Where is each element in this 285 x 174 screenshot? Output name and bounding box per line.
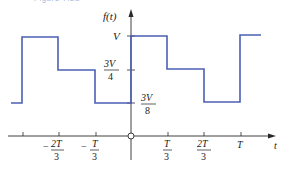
x-tick-label-2T3-num: 2T <box>197 138 209 149</box>
x-tick-label-T: T <box>237 139 244 150</box>
x-axis-arrow-icon <box>268 134 276 139</box>
y-tick-label-V: V <box>113 30 121 42</box>
x-tick-label-negT3-den: 3 <box>92 151 97 162</box>
figure: Figure 7.23 f(t) V 3V <box>0 0 285 174</box>
x-tick-label-2T3-den: 3 <box>201 151 206 162</box>
x-axis-label: t <box>274 140 277 151</box>
y-tick-label-3V8-den: 8 <box>145 105 150 116</box>
waveform-plot: f(t) V 3V 4 3V 8 − 2T 3 − T 3 T 3 2T 3 T… <box>0 0 285 174</box>
figure-caption: Figure 7.23 <box>34 0 80 3</box>
waveform-line <box>11 35 261 103</box>
x-tick-label-neg2T3-num: 2T <box>51 138 63 149</box>
x-tick-label-T3-num: T <box>164 138 171 149</box>
y-tick-label-3V8-num: 3V <box>140 92 154 103</box>
x-tick-sign: − <box>81 141 87 152</box>
x-tick-sign: − <box>43 141 49 152</box>
x-tick-label-T3-den: 3 <box>164 151 169 162</box>
y-axis-arrow-icon <box>129 9 134 17</box>
y-axis-label: f(t) <box>103 10 117 23</box>
origin-marker <box>128 133 134 139</box>
x-tick-label-neg2T3-den: 3 <box>54 151 59 162</box>
x-tick-label-negT3-num: T <box>92 138 99 149</box>
y-tick-label-3V4-num: 3V <box>103 58 117 69</box>
y-tick-label-3V4-den: 4 <box>108 71 113 82</box>
